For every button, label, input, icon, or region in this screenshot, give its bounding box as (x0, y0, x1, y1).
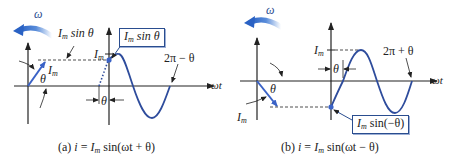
rotation-arrow-icon (13, 24, 52, 36)
rotation-arrow-icon (244, 16, 281, 28)
theta-angle-label: θ (270, 83, 276, 95)
im-sin-theta-label: Im sin θ (58, 27, 94, 41)
im-tick-label: Im (94, 48, 104, 62)
caption-b: (b) i = Im sin(ωt − θ) (281, 141, 379, 155)
offset-theta-label: θ (333, 63, 339, 75)
theta-angle-label: θ (40, 73, 46, 85)
im-sin-theta-box: Im sin θ (119, 28, 165, 47)
phasor-magnitude-label: Im (48, 64, 58, 78)
omega-label: ω (34, 8, 42, 20)
caption-a: (a) i = Im sin(ωt + θ) (58, 141, 155, 155)
zero-cross-label: 2π − θ (164, 52, 195, 64)
zero-cross-label: 2π + θ (383, 45, 414, 57)
offset-theta-label: θ (101, 95, 107, 107)
phasor-magnitude-label: Im (237, 111, 247, 125)
im-tick-label: Im (314, 44, 324, 58)
axis-label-omega-t: ωt (432, 75, 443, 86)
axis-label-omega-t: ωt (211, 80, 222, 91)
im-sin-neg-theta-box: Im sin(−θ) (352, 115, 409, 134)
omega-label: ω (266, 4, 274, 16)
